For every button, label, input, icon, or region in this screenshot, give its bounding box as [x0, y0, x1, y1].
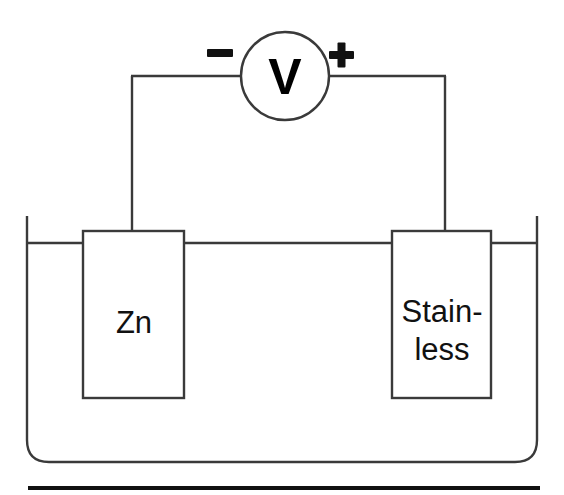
zinc-electrode: Zn — [83, 231, 184, 398]
stainless-electrode: Stain- less — [392, 231, 491, 398]
stainless-electrode-label-line2: less — [414, 332, 469, 367]
cell-diagram-figure: V Zn Stain- less — [0, 0, 564, 495]
zinc-electrode-label: Zn — [116, 305, 152, 340]
stainless-electrode-label-line1: Stain- — [402, 294, 483, 329]
voltmeter: V — [241, 32, 329, 120]
diagram-canvas: V Zn Stain- less — [0, 0, 564, 495]
voltmeter-symbol: V — [268, 49, 302, 105]
minus-terminal-icon — [207, 49, 233, 57]
plus-terminal-icon — [329, 43, 354, 68]
